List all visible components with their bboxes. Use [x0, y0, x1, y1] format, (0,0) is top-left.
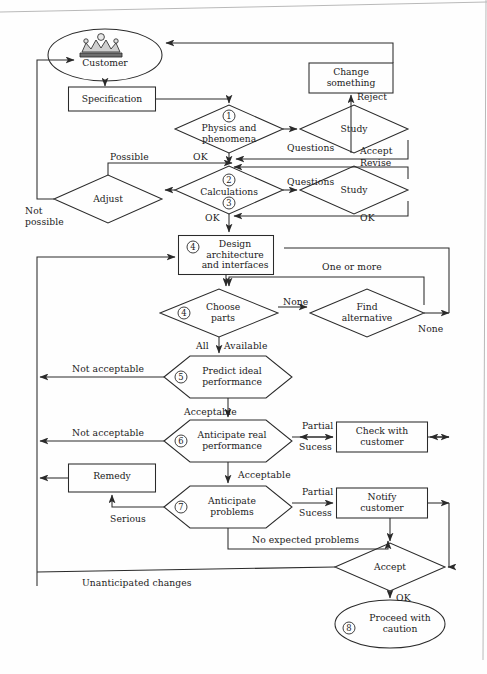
node-label-customer: Customer: [65, 58, 145, 69]
edge-label-questions-2: Questions: [287, 177, 334, 188]
edge-label-questions-1: Questions: [287, 143, 334, 154]
node-label-choose-parts: Choose parts: [192, 302, 254, 323]
edge-label-one-or-more: One or more: [322, 262, 382, 273]
flowchart-canvas: Customer Specification Change something …: [0, 0, 487, 674]
step-number-3: 3: [223, 197, 235, 209]
step-number-2: 2: [223, 174, 235, 186]
edge-accept-unanticipated-changes: [37, 567, 335, 572]
step-number-7: 7: [175, 501, 187, 513]
edge-change-to-customer: [166, 43, 393, 63]
edge-label-not-acceptable-2: Not acceptable: [72, 428, 144, 439]
edge-label-possible: Possible: [110, 152, 149, 163]
edge-label-partial-2: Partial: [302, 487, 333, 498]
edge-label-available: Available: [224, 341, 267, 352]
edge-label-not-possible: Not possible: [25, 206, 64, 227]
step-number-8: 8: [343, 622, 355, 634]
edge-label-ok-3: OK: [360, 213, 375, 224]
edge-right-rail-to-accept: [448, 503, 449, 567]
edge-label-reject: Reject: [357, 92, 387, 103]
edge-study2-ok: [234, 201, 408, 216]
edge-label-ok-2: OK: [205, 213, 220, 224]
edge-label-partial-1: Partial: [302, 421, 333, 432]
node-label-find-alternative: Find alternative: [334, 302, 400, 323]
edge-label-none-1: None: [283, 297, 308, 308]
node-label-remedy: Remedy: [69, 471, 155, 482]
edge-specification-to-physics: [156, 99, 230, 103]
edge-label-revise: Revise: [360, 158, 391, 169]
edge-label-not-acceptable-1: Not acceptable: [72, 364, 144, 375]
edge-label-none-2: None: [418, 324, 443, 335]
node-label-check-with-customer: Check with customer: [337, 426, 427, 447]
step-number-6: 6: [175, 435, 187, 447]
edge-anticipate-problems-serious: [112, 495, 164, 507]
edge-label-acceptable-1: Acceptable: [184, 407, 237, 418]
node-label-specification: Specification: [69, 94, 155, 105]
edge-label-ok-1: OK: [193, 152, 208, 163]
edge-label-accept-1: Accept: [360, 146, 393, 157]
edge-label-unanticipated-changes: Unanticipated changes: [82, 578, 192, 589]
node-label-anticipate-problems: Anticipate problems: [192, 496, 272, 517]
edge-label-no-expected-problems: No expected problems: [252, 535, 359, 546]
node-label-accept: Accept: [360, 562, 420, 573]
edge-not-possible-to-customer: [37, 60, 74, 199]
node-label-proceed-with-caution: Proceed with caution: [362, 613, 438, 634]
edge-label-sucess-2: Sucess: [299, 508, 332, 519]
node-label-physics-and-phenomena: Physics and phenomena: [186, 123, 272, 144]
step-number-5: 5: [175, 371, 187, 383]
crown-icon: [80, 34, 122, 57]
node-label-change-something: Change something: [309, 67, 393, 88]
node-label-design-architecture: Design architecture and interfaces: [198, 239, 272, 271]
node-label-notify-customer: Notify customer: [337, 492, 427, 513]
edge-label-ok-4: OK: [396, 593, 411, 604]
node-label-calculations: Calculations: [186, 187, 272, 198]
step-number-4-choose: 4: [178, 307, 190, 319]
node-label-predict-ideal-performance: Predict ideal performance: [192, 366, 272, 387]
edge-label-all: All: [196, 341, 209, 352]
step-number-4-design: 4: [187, 241, 199, 253]
edge-label-serious: Serious: [110, 514, 146, 525]
node-label-adjust: Adjust: [78, 194, 138, 205]
node-label-anticipate-real-performance: Anticipate real performance: [186, 430, 278, 451]
edge-label-acceptable-2: Acceptable: [238, 470, 291, 481]
node-label-study-1: Study: [324, 124, 384, 135]
step-number-1: 1: [223, 110, 235, 122]
edge-left-rail-to-design: [37, 257, 175, 586]
edge-label-sucess-1: Sucess: [299, 442, 332, 453]
